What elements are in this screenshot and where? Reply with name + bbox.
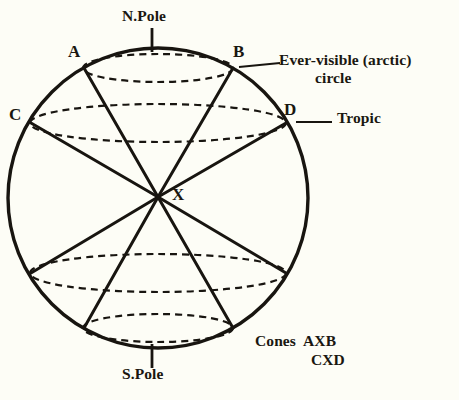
point-b-label: B: [233, 43, 244, 61]
cone-rays: [31, 68, 286, 328]
point-d-label: D: [284, 101, 296, 119]
ray-x-to-c2: [31, 197, 158, 273]
ray-x-to-a: [84, 68, 158, 197]
point-c-label: C: [9, 106, 21, 124]
point-a-label: A: [68, 43, 80, 61]
ever-visible-circle-label-line2: circle: [315, 70, 351, 87]
tropic-north-ring: [30, 104, 286, 142]
ray-x-to-b2: [158, 197, 233, 328]
ray-x-to-d2: [158, 197, 286, 273]
astronomy-diagram-figure: N.Pole S.Pole A B C D X Ever-visible (ar…: [0, 0, 459, 400]
south-pole-label: S.Pole: [122, 366, 164, 383]
ever-visible-leader-line: [239, 63, 280, 67]
north-pole-label: N.Pole: [122, 8, 166, 25]
center-point-x-label: X: [172, 186, 184, 204]
tropic-label: Tropic: [337, 110, 381, 127]
ray-x-to-b: [158, 68, 233, 197]
tropic-south-ring: [30, 254, 286, 292]
cones-label-line2: CXD: [311, 352, 345, 369]
cones-label-line1: Cones AXB: [255, 333, 336, 350]
ever-visible-circle-label-line1: Ever-visible (arctic): [279, 52, 412, 69]
ray-x-to-a2: [84, 197, 158, 328]
